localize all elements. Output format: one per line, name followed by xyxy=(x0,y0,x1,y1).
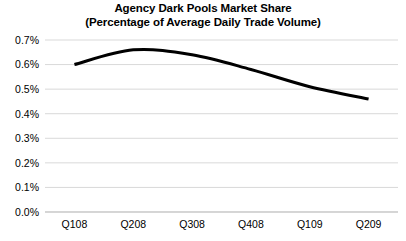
x-axis-tick-label: Q209 xyxy=(356,218,382,230)
y-axis-tick-label: 0.7% xyxy=(15,34,39,46)
x-axis-ticks: Q108Q208Q308Q408Q109Q209 xyxy=(62,218,382,230)
y-axis-tick-label: 0.1% xyxy=(15,181,39,193)
y-axis-tick-label: 0.3% xyxy=(15,132,39,144)
y-axis-ticks: 0.0%0.1%0.2%0.3%0.4%0.5%0.6%0.7% xyxy=(15,34,39,218)
y-axis-tick-label: 0.2% xyxy=(15,157,39,169)
x-axis-tick-label: Q208 xyxy=(120,218,146,230)
y-axis-tick-label: 0.6% xyxy=(15,58,39,70)
chart-plot: 0.0%0.1%0.2%0.3%0.4%0.5%0.6%0.7% Q108Q20… xyxy=(0,0,406,241)
x-axis-tick-label: Q408 xyxy=(238,218,264,230)
y-axis-tick-label: 0.0% xyxy=(15,206,39,218)
y-axis-tick-label: 0.4% xyxy=(15,108,39,120)
x-axis-tick-label: Q109 xyxy=(297,218,323,230)
data-line-series xyxy=(74,49,368,99)
y-axis-tick-label: 0.5% xyxy=(15,83,39,95)
x-axis-tick-label: Q308 xyxy=(179,218,205,230)
x-axis-tick-label: Q108 xyxy=(62,218,88,230)
gridlines xyxy=(45,40,398,212)
chart-container: Agency Dark Pools Market Share (Percenta… xyxy=(0,0,406,241)
data-series-group xyxy=(74,49,368,99)
